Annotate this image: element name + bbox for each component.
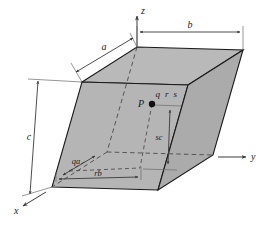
axis-y: y <box>218 151 256 162</box>
dimension-a-extension-far <box>130 33 137 47</box>
point-p-coordinate-label: q r s <box>155 89 178 99</box>
dimension-qa-label: qa <box>72 156 81 166</box>
dimension-b: b <box>137 19 243 50</box>
axis-x-label: x <box>13 205 19 216</box>
point-p-marker <box>149 101 155 107</box>
point-p-label: P <box>137 98 144 109</box>
dimension-rb-label: rb <box>94 168 102 178</box>
dimension-b-label: b <box>188 19 193 30</box>
dimension-c-label: c <box>27 131 32 142</box>
dimension-a-extension-near <box>71 63 82 82</box>
dimension-sc-label: sc <box>155 132 162 142</box>
axis-x-line <box>23 192 46 206</box>
dimension-a-label: a <box>102 41 107 52</box>
axis-z: z <box>137 5 145 47</box>
axis-z-label: z <box>140 5 145 16</box>
dimension-c-extension-bottom <box>22 187 52 196</box>
unit-cell-figure: z y x a b c <box>0 0 273 229</box>
unit-cell-drawing: z y x a b c <box>0 0 273 229</box>
axis-x: x <box>13 192 46 216</box>
dimension-c-extension-top <box>28 79 82 82</box>
axis-y-label: y <box>250 151 256 162</box>
